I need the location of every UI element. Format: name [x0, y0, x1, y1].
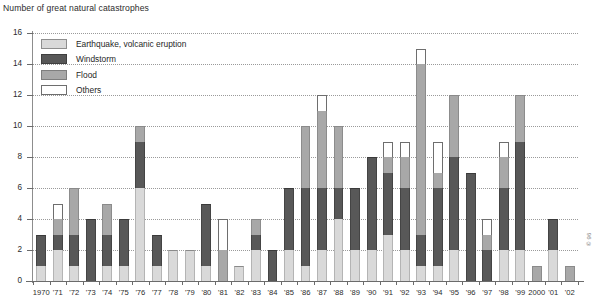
x-tick-9: [182, 281, 183, 285]
bar-segment-other-1998: [499, 142, 509, 158]
bar-segment-wind-1973: [86, 219, 96, 281]
legend-item-wind: Windstorm: [41, 52, 186, 68]
legend-label-wind: Windstorm: [76, 54, 116, 64]
bar-1993: [416, 49, 426, 282]
bar-segment-flood-1972: [69, 188, 79, 235]
bar-1995: [449, 95, 459, 281]
bar-segment-eq-1991: [383, 235, 393, 282]
x-tick-20: [363, 281, 364, 285]
bar-1982: [234, 266, 244, 282]
x-tick-5: [116, 281, 117, 285]
x-tick-26: [462, 281, 463, 285]
bar-segment-wind-1998: [499, 188, 509, 250]
bar-1996: [466, 173, 476, 282]
bar-segment-eq-1979: [185, 250, 195, 281]
x-tick-label-2002: '02: [557, 288, 582, 297]
bar-segment-flood-1991: [383, 157, 393, 173]
bar-segment-wind-1994: [433, 188, 443, 266]
natural-catastrophes-chart: Number of great natural catastrophes 024…: [0, 0, 610, 307]
bar-segment-flood-1974: [102, 204, 112, 235]
bar-1997: [482, 219, 492, 281]
bar-segment-eq-1982: [234, 266, 244, 282]
bar-2002: [565, 266, 575, 282]
x-tick-31: [545, 281, 546, 285]
x-tick-12: [231, 281, 232, 285]
bar-1989: [350, 188, 360, 281]
bar-segment-eq-1972: [69, 266, 79, 282]
y-tick-label-4: 4: [0, 214, 22, 223]
bar-segment-eq-1990: [367, 250, 377, 281]
legend-swatch-flood-icon: [41, 70, 67, 80]
bar-segment-flood-1994: [433, 173, 443, 189]
bar-segment-eq-1987: [317, 250, 327, 281]
bar-1992: [400, 142, 410, 282]
bar-segment-wind-1995: [449, 157, 459, 250]
x-tick-30: [528, 281, 529, 285]
x-tick-24: [429, 281, 430, 285]
bar-segment-flood-1971: [53, 219, 63, 235]
bar-segment-eq-1976: [135, 188, 145, 281]
x-tick-4: [99, 281, 100, 285]
bar-1978: [168, 250, 178, 281]
bar-segment-wind-1986: [301, 188, 311, 266]
legend-label-other: Others: [76, 85, 101, 95]
bar-segment-wind-1970: [36, 235, 46, 266]
x-tick-15: [281, 281, 282, 285]
bar-segment-wind-1974: [102, 235, 112, 266]
bar-segment-flood-1992: [400, 157, 410, 188]
legend-swatch-wind-icon: [41, 54, 67, 64]
x-tick-14: [264, 281, 265, 285]
bar-1983: [251, 219, 261, 281]
y-tick-label-10: 10: [0, 121, 22, 130]
bar-segment-eq-1977: [152, 266, 162, 282]
x-tick-29: [512, 281, 513, 285]
bar-segment-wind-1990: [367, 157, 377, 250]
bar-segment-eq-1983: [251, 250, 261, 281]
x-tick-2: [66, 281, 67, 285]
bar-segment-wind-1977: [152, 235, 162, 266]
bar-segment-flood-2002: [565, 266, 575, 282]
bar-segment-wind-1993: [416, 235, 426, 266]
bar-segment-flood-1999: [515, 95, 525, 142]
bar-1976: [135, 126, 145, 281]
bar-segment-eq-1999: [515, 250, 525, 281]
bar-1970: [36, 235, 46, 282]
x-tick-21: [380, 281, 381, 285]
bar-segment-eq-1992: [400, 250, 410, 281]
bar-1973: [86, 219, 96, 281]
x-tick-10: [198, 281, 199, 285]
bar-segment-other-1994: [433, 142, 443, 173]
bar-1975: [119, 219, 129, 281]
bar-segment-wind-1985: [284, 188, 294, 250]
bar-1990: [367, 157, 377, 281]
bar-segment-eq-1995: [449, 250, 459, 281]
x-tick-19: [347, 281, 348, 285]
bar-2001: [548, 219, 558, 281]
bar-segment-other-1991: [383, 142, 393, 158]
bar-1979: [185, 250, 195, 281]
bar-segment-flood-1993: [416, 64, 426, 235]
bar-segment-wind-1997: [482, 250, 492, 281]
bar-segment-eq-1985: [284, 250, 294, 281]
bar-segment-eq-1986: [301, 266, 311, 282]
y-tick-label-16: 16: [0, 28, 22, 37]
bar-segment-wind-1988: [334, 188, 344, 219]
x-tick-1: [50, 281, 51, 285]
bar-segment-eq-1994: [433, 266, 443, 282]
bar-segment-eq-1998: [499, 250, 509, 281]
bar-segment-wind-1983: [251, 235, 261, 251]
bar-segment-other-1971: [53, 204, 63, 220]
x-tick-16: [297, 281, 298, 285]
x-tick-27: [479, 281, 480, 285]
bar-segment-flood-1976: [135, 126, 145, 142]
bar-segment-flood-1981: [218, 250, 228, 281]
y-tick-label-8: 8: [0, 152, 22, 161]
bar-segment-flood-1995: [449, 95, 459, 157]
bar-segment-eq-1974: [102, 266, 112, 282]
legend-item-eq: Earthquake, volcanic eruption: [41, 36, 186, 52]
y-tick-label-14: 14: [0, 59, 22, 68]
x-axis-line: [26, 281, 584, 282]
bar-segment-flood-1988: [334, 126, 344, 188]
bar-segment-wind-1972: [69, 235, 79, 266]
legend-label-flood: Flood: [76, 70, 97, 80]
